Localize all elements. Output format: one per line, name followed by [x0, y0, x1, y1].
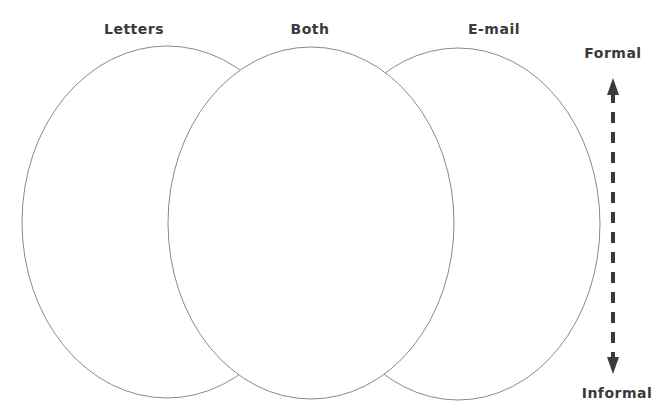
venn-diagram — [0, 0, 669, 417]
arrow-down-icon — [607, 357, 619, 374]
letters-heading: Letters — [104, 21, 164, 37]
email-heading: E-mail — [468, 21, 520, 37]
formality-arrow — [607, 78, 619, 374]
both-ellipse — [168, 47, 454, 399]
arrow-up-icon — [607, 78, 619, 95]
formal-label: Formal — [584, 45, 641, 61]
both-heading: Both — [291, 21, 330, 37]
informal-label: Informal — [582, 385, 653, 401]
